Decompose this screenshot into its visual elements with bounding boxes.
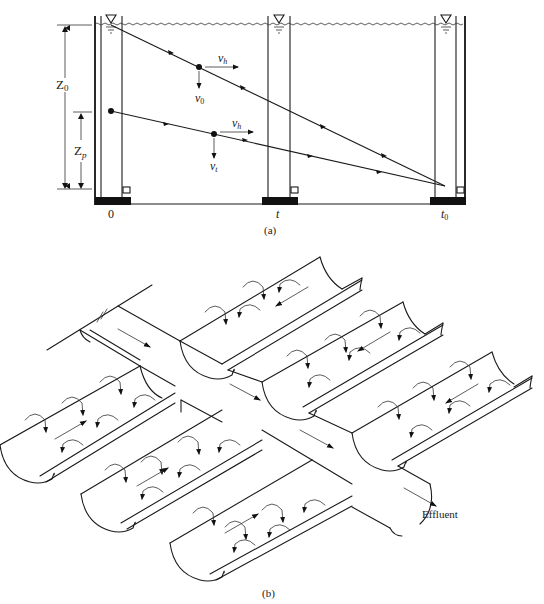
time-label-t0: t0 [441, 207, 448, 222]
part-a-settling-trajectories: Z0 Zp vh v0 [56, 15, 466, 237]
caption-b: (b) [262, 587, 275, 600]
zp-label: Zp [74, 143, 87, 160]
column-middle [262, 16, 298, 205]
column-end [430, 16, 466, 205]
time-label-start: 0 [108, 207, 114, 221]
trough-row-3 [352, 352, 532, 471]
vh-upper-label: vh [218, 51, 227, 66]
trough-row-left-2 [81, 400, 262, 532]
part-b-effluent-trough-layout: Effluent [0, 257, 532, 600]
trajectory-critical-particle: vh v0 [111, 25, 445, 186]
trough-row-left-3 [170, 430, 352, 581]
v0-label: v0 [195, 91, 204, 106]
central-collection-channel: Effluent [140, 341, 458, 536]
vh-lower-label: vh [232, 116, 241, 131]
inlet-channel [47, 285, 180, 366]
trough-row-2 [262, 302, 443, 420]
time-label-t: t [276, 207, 280, 221]
trough-row-left-1 [0, 366, 175, 483]
depth-dimension-z0: Z0 [56, 25, 92, 189]
settling-tank-figure: Z0 Zp vh v0 [0, 0, 544, 604]
caption-a: (a) [264, 224, 277, 237]
depth-dimension-zp: Zp [73, 112, 92, 189]
trough-row-1 [180, 257, 362, 379]
trajectory-small-particle: vh vt [108, 108, 445, 186]
z0-label: Z0 [56, 77, 69, 93]
effluent-label: Effluent [422, 508, 458, 520]
vt-label: vt [210, 159, 218, 174]
